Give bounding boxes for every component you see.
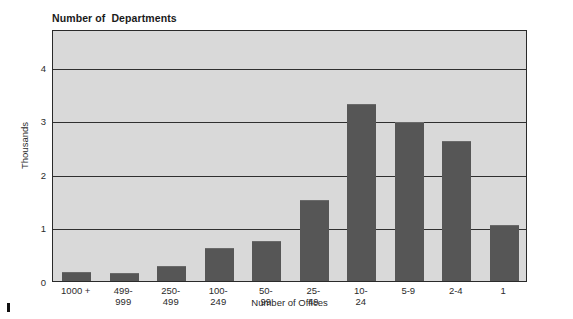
bar [490,225,519,281]
chart-title: Number of Departments [52,12,177,24]
y-tick-label: 4 [24,62,46,73]
corner-mark [7,303,10,312]
x-tick-label: 2-4 [432,285,480,296]
y-tick-label: 3 [24,116,46,127]
y-tick-label: 1 [24,223,46,234]
gridline [53,69,526,70]
bar [110,273,139,281]
plot-inner [53,31,526,281]
bar [205,248,234,281]
y-tick-label: 2 [24,169,46,180]
x-tick-label: 5-9 [385,285,433,296]
bar [252,241,281,281]
bar [347,104,376,281]
y-axis-tick-labels: 01234 [22,30,46,282]
x-tick-label: 1 [480,285,528,296]
chart-figure: Number of Departments Thousands 01234 10… [0,0,573,319]
x-tick-label: 1000 + [52,285,100,296]
bar [442,141,471,281]
gridline [53,122,526,123]
x-axis-title: Number of Offices [52,297,527,308]
plot-area [52,30,527,282]
bar [395,122,424,281]
bar [62,272,91,281]
bar [157,266,186,281]
bar [300,200,329,281]
y-tick-label: 0 [24,277,46,288]
